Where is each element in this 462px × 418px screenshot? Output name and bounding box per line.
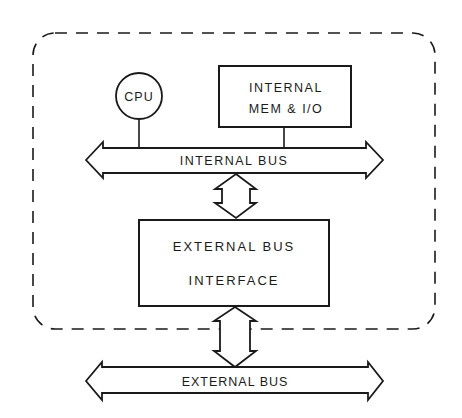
internal-bus-label: INTERNAL BUS bbox=[180, 154, 289, 168]
vertical-arrow-internal-to-interface bbox=[215, 174, 256, 218]
internal-mem-io-label-1: INTERNAL bbox=[249, 81, 323, 95]
external-bus: EXTERNAL BUS bbox=[86, 362, 383, 400]
vertical-arrow-interface-to-external bbox=[214, 307, 256, 367]
external-bus-interface-label-2: INTERFACE bbox=[189, 273, 280, 288]
diagram-canvas: CPU INTERNAL MEM & I/O INTERNAL BUS EXTE… bbox=[0, 0, 462, 418]
internal-mem-io-label-2: MEM & I/O bbox=[249, 102, 324, 116]
internal-bus: INTERNAL BUS bbox=[86, 142, 383, 178]
external-bus-label: EXTERNAL BUS bbox=[182, 375, 289, 389]
external-bus-interface-label-1: EXTERNAL BUS bbox=[173, 239, 296, 254]
external-bus-interface-node: EXTERNAL BUS INTERFACE bbox=[139, 220, 329, 306]
cpu-label: CPU bbox=[124, 90, 153, 104]
internal-mem-io-node: INTERNAL MEM & I/O bbox=[219, 66, 351, 148]
cpu-node: CPU bbox=[116, 73, 162, 148]
